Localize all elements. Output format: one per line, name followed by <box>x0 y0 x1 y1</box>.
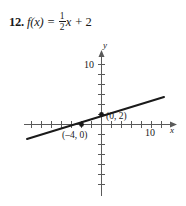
y-axis-arrowhead <box>99 50 105 57</box>
figure-container: 12. f(x) = 1 2 x + 2 <box>0 0 186 206</box>
fraction-denominator: 2 <box>59 23 66 32</box>
point-neg4-0 <box>79 122 84 127</box>
problem-number: 12. <box>9 15 24 30</box>
function-notation: f(x) <box>27 15 44 30</box>
x-tick-label-10: 10 <box>145 127 155 138</box>
x-axis-label: x <box>169 125 174 135</box>
fraction-numerator: 1 <box>59 12 66 21</box>
variable-x: x <box>66 15 72 30</box>
point-0-2 <box>99 112 104 117</box>
y-tick-label-10: 10 <box>84 59 94 70</box>
point-label-0-2: (0, 2) <box>106 111 127 122</box>
problem-statement: 12. f(x) = 1 2 x + 2 <box>9 11 92 33</box>
graph-svg: x y 10 10 (0, 2) (–4, 0) <box>0 38 186 206</box>
equals-sign: = <box>48 15 55 30</box>
constant-term: + 2 <box>75 15 91 30</box>
coordinate-graph: x y 10 10 (0, 2) (–4, 0) <box>0 38 186 206</box>
y-axis-label: y <box>102 40 107 50</box>
fraction-one-half: 1 2 <box>59 12 66 32</box>
point-label-neg4-0: (–4, 0) <box>62 130 87 141</box>
function-line <box>27 97 164 139</box>
